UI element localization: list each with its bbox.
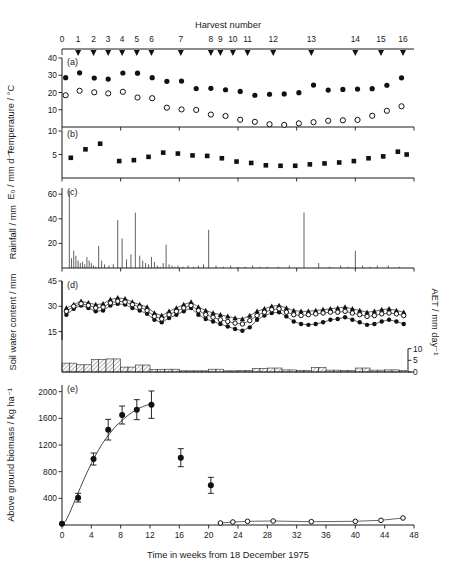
data-point-open [64, 309, 68, 313]
figure-svg: Harvest number 012345678910111213141516 … [0, 0, 456, 574]
aet-bar [355, 368, 362, 372]
harvest-marker-triangle [378, 50, 384, 56]
data-point-filled [282, 91, 287, 96]
data-point-open [271, 519, 276, 524]
data-point-filled [394, 319, 398, 323]
data-point-open [292, 313, 296, 317]
data-point-open [204, 313, 208, 317]
data-point-open [299, 313, 303, 317]
data-point-open [355, 117, 360, 122]
data-point-filled [91, 456, 97, 462]
harvest-marker-triangle [105, 50, 111, 56]
data-point-filled [208, 482, 214, 488]
data-point-open [223, 113, 228, 118]
data-point-square [98, 141, 103, 146]
panel-c-yaxis-label: 60 [48, 189, 58, 199]
data-point-filled [321, 320, 325, 324]
data-point-open [106, 91, 111, 96]
data-point-filled [380, 319, 384, 323]
data-point-filled [336, 317, 340, 321]
panel-a-yaxis-label: 10 [48, 105, 58, 115]
aet-bar [260, 369, 267, 373]
harvest-number-label: 10 [228, 34, 238, 44]
harvest-axis: Harvest number 012345678910111213141516 [60, 20, 414, 56]
data-point-open [399, 104, 404, 109]
panel-e-letter: (e) [67, 384, 78, 394]
harvest-marker-triangle [308, 50, 314, 56]
aet-bar [253, 369, 260, 373]
data-point-square [190, 153, 195, 158]
data-point-open [387, 311, 391, 315]
aet-bar [135, 365, 142, 372]
aet-bar [84, 365, 91, 372]
panel-b-yaxis-label: 5 [52, 150, 57, 160]
data-point-open [270, 307, 274, 311]
data-point-filled [370, 86, 375, 91]
panel-a-yaxis-label: 40 [48, 53, 58, 63]
data-point-filled [267, 92, 272, 97]
harvest-number-label: 1 [76, 34, 81, 44]
data-point-square [264, 163, 269, 168]
harvest-marker-triangle [208, 50, 214, 56]
data-point-open [123, 300, 127, 304]
data-point-open [309, 519, 314, 524]
data-point-open [120, 89, 125, 94]
data-point-square [249, 161, 254, 166]
data-point-filled [150, 75, 155, 80]
panel-c-yaxis-label: 20 [48, 238, 58, 248]
data-point-open [72, 304, 76, 308]
panel-e-xaxis-label: 20 [204, 530, 214, 540]
harvest-marker-triangle [217, 50, 223, 56]
aet-bar [121, 367, 128, 372]
harvest-marker-triangle [270, 50, 276, 56]
data-point-open [353, 519, 358, 524]
data-point-square [132, 158, 137, 163]
panel-e-xaxis-label: 16 [175, 530, 185, 540]
data-point-filled [148, 402, 154, 408]
panel-a-plot: 10203040 [48, 53, 414, 131]
panel-e-xaxis-label: 4 [89, 530, 94, 540]
harvest-number-label: 2 [91, 34, 96, 44]
panel-d-yaxis-label: 45 [48, 276, 58, 286]
data-point-open [189, 303, 193, 307]
data-point-open [231, 520, 236, 525]
data-point-filled [223, 87, 228, 92]
harvest-number-label: 3 [106, 34, 111, 44]
panel-e-xaxis-label: 28 [263, 530, 273, 540]
data-point-square [176, 151, 181, 156]
aet-bar [69, 363, 76, 372]
data-point-open [226, 319, 230, 323]
aet-bar [363, 368, 370, 372]
harvest-number-label: 5 [134, 34, 139, 44]
harvest-marker-triangle [91, 50, 97, 56]
data-point-triangle [210, 310, 215, 315]
data-point-filled [208, 86, 213, 91]
data-point-filled [326, 87, 331, 92]
data-point-filled [135, 71, 140, 76]
data-point-open [314, 312, 318, 316]
data-point-open [152, 314, 156, 318]
data-point-open [248, 318, 252, 322]
panel-a-temperature: (a) Temperature / °C 10203040 [6, 53, 414, 155]
harvest-number-label: 16 [398, 34, 408, 44]
data-point-square [117, 159, 122, 164]
data-point-filled [59, 521, 65, 527]
data-point-triangle [247, 313, 252, 318]
data-point-square [308, 162, 313, 167]
panel-e-xaxis-label: 8 [118, 530, 123, 540]
harvest-tick-group: 012345678910111213141516 [60, 34, 408, 56]
data-point-square [220, 156, 225, 161]
data-point-filled [164, 79, 169, 84]
data-point-filled [63, 75, 68, 80]
harvest-number-label: 0 [60, 34, 65, 44]
data-point-filled [328, 318, 332, 322]
data-point-open [267, 122, 272, 127]
data-point-filled [120, 70, 125, 75]
panel-a-yaxis-label: 30 [48, 70, 58, 80]
data-point-open [218, 318, 222, 322]
data-point-open [311, 120, 316, 125]
data-point-open [238, 117, 243, 122]
panel-c-yaxis-label: 40 [48, 214, 58, 224]
data-point-open [365, 314, 369, 318]
panel-c-ylabel: Rainfall / mm [8, 205, 18, 259]
